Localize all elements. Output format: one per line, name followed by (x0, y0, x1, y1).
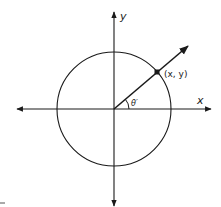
point-label: (x, y) (164, 69, 187, 79)
point-marker (155, 70, 160, 75)
angle-arc (125, 99, 129, 109)
y-axis-label: y (119, 10, 127, 23)
angle-label: θ′ (131, 99, 138, 108)
unit-circle-diagram: y x (x, y) θ′ (0, 0, 221, 207)
x-axis-label: x (196, 94, 204, 107)
